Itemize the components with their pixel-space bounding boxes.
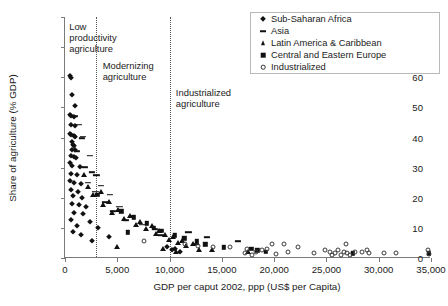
data-point bbox=[97, 185, 103, 187]
data-point bbox=[144, 221, 148, 225]
legend-item[interactable]: Asia bbox=[251, 26, 439, 37]
data-point bbox=[109, 210, 115, 215]
data-point bbox=[274, 252, 279, 257]
x-tick-mark bbox=[379, 258, 380, 262]
y-tick-mark bbox=[61, 17, 65, 18]
data-point bbox=[87, 219, 93, 225]
data-point bbox=[79, 137, 85, 139]
data-point bbox=[73, 223, 79, 229]
data-point bbox=[76, 124, 82, 126]
x-tick-label: 15,000 bbox=[207, 264, 236, 275]
y-axis-label-wrapper: Share of agriculture (% GDP) bbox=[14, 17, 15, 258]
data-point bbox=[114, 244, 120, 249]
diamond-marker-icon bbox=[257, 15, 269, 24]
data-point bbox=[270, 242, 275, 247]
data-point bbox=[100, 202, 106, 207]
data-point bbox=[234, 241, 240, 243]
data-point bbox=[344, 242, 349, 247]
data-point bbox=[81, 172, 87, 177]
data-point bbox=[166, 237, 172, 242]
data-point bbox=[352, 249, 357, 254]
data-point bbox=[394, 251, 399, 256]
data-point bbox=[126, 230, 130, 234]
data-point bbox=[182, 236, 186, 240]
data-point bbox=[69, 163, 75, 169]
data-point bbox=[79, 195, 85, 201]
industrialized-agriculture: Industrialized agriculture bbox=[176, 87, 231, 109]
data-point bbox=[222, 245, 226, 249]
data-point bbox=[264, 246, 269, 251]
data-point bbox=[93, 174, 99, 176]
legend-item[interactable]: Sub-Saharan Africa bbox=[251, 14, 439, 25]
data-point bbox=[121, 216, 127, 221]
legend-item-label: Central and Eastern Europe bbox=[271, 50, 386, 60]
data-point bbox=[74, 189, 80, 195]
y-tick-mark bbox=[61, 77, 65, 78]
data-point bbox=[69, 92, 75, 98]
low-productivity-agriculture: Low productivity agriculture bbox=[69, 21, 116, 54]
x-tick-label: 25,000 bbox=[312, 264, 341, 275]
x-tick-mark bbox=[222, 258, 223, 262]
data-point bbox=[82, 166, 88, 168]
data-point bbox=[160, 246, 166, 251]
data-point bbox=[173, 249, 179, 254]
data-point bbox=[281, 242, 286, 247]
data-point bbox=[95, 193, 99, 197]
data-point bbox=[89, 171, 95, 173]
x-tick-label: 20,000 bbox=[259, 264, 288, 275]
data-point bbox=[73, 150, 79, 152]
data-point bbox=[75, 202, 81, 208]
data-point bbox=[133, 222, 139, 227]
y-tick-mark bbox=[61, 138, 65, 139]
data-point bbox=[242, 251, 247, 256]
dash-marker-icon bbox=[257, 27, 269, 36]
data-point bbox=[71, 180, 77, 186]
data-point bbox=[367, 250, 372, 255]
x-tick-label: 0 bbox=[62, 264, 67, 275]
x-tick-label: 30,000 bbox=[364, 264, 393, 275]
data-point bbox=[72, 103, 78, 109]
data-point bbox=[159, 229, 163, 233]
legend: Sub-Saharan AfricaAsiaLatin America & Ca… bbox=[250, 12, 440, 74]
triangle-marker-icon bbox=[257, 39, 269, 48]
data-point bbox=[132, 215, 136, 219]
y-tick-label: 50 bbox=[412, 102, 423, 113]
data-point bbox=[73, 172, 79, 178]
data-point bbox=[311, 251, 316, 256]
legend-item[interactable]: Central and Eastern Europe bbox=[251, 50, 439, 61]
data-point bbox=[95, 225, 101, 231]
data-point bbox=[106, 234, 112, 240]
x-tick-label: 35,000 bbox=[416, 264, 445, 275]
data-point bbox=[143, 226, 149, 231]
y-tick-mark bbox=[61, 107, 65, 108]
square-marker-icon bbox=[257, 51, 269, 60]
agriculture-gdp-scatter-chart: Share of agriculture (% GDP) GDP per cap… bbox=[0, 0, 448, 306]
data-point bbox=[296, 245, 301, 250]
legend-item[interactable]: Latin America & Caribbean bbox=[251, 38, 439, 49]
data-point bbox=[426, 252, 431, 257]
x-tick-mark bbox=[431, 258, 432, 262]
data-point bbox=[211, 245, 216, 250]
y-tick-mark bbox=[61, 198, 65, 199]
x-tick-mark bbox=[65, 258, 66, 262]
data-point bbox=[87, 155, 93, 157]
y-tick-mark bbox=[61, 228, 65, 229]
x-tick-mark bbox=[274, 258, 275, 262]
legend-item[interactable]: Industrialized bbox=[251, 62, 439, 73]
legend-item-label: Sub-Saharan Africa bbox=[271, 14, 352, 24]
data-point bbox=[185, 232, 191, 234]
data-point bbox=[70, 229, 76, 235]
data-point bbox=[195, 243, 200, 248]
y-tick-label: 10 bbox=[412, 222, 423, 233]
data-point bbox=[228, 245, 233, 250]
data-point bbox=[203, 242, 207, 246]
divider-modernizing-industrialized bbox=[170, 17, 171, 257]
data-point bbox=[106, 199, 112, 204]
x-tick-mark bbox=[117, 258, 118, 262]
data-point bbox=[175, 240, 181, 245]
data-point bbox=[119, 209, 123, 213]
y-tick-label: 30 bbox=[412, 162, 423, 173]
x-tick-mark bbox=[170, 258, 171, 262]
data-point bbox=[152, 226, 156, 230]
data-point bbox=[142, 239, 147, 244]
